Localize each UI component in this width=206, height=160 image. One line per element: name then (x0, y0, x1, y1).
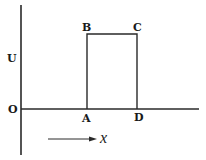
potential-barrier-diagram: U O B C A D x (0, 0, 206, 160)
point-label-a: A (81, 112, 91, 125)
point-label-b: B (82, 21, 91, 34)
axis-label-u: U (7, 52, 17, 65)
point-label-c: C (133, 21, 142, 34)
origin-label: O (8, 103, 18, 116)
x-direction-label: x (99, 129, 107, 146)
barrier-outline (87, 34, 137, 109)
point-label-d: D (134, 111, 144, 124)
x-direction-arrow-icon (48, 137, 97, 142)
